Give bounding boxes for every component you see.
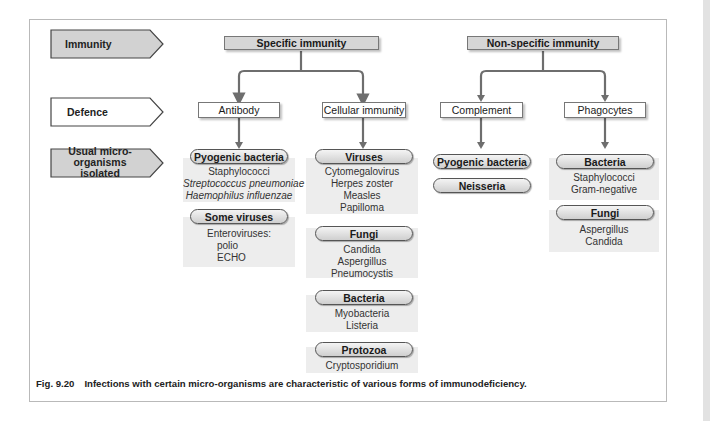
node-nonspecific-immunity: Non-specific immunity bbox=[467, 36, 619, 50]
group-title: Fungi bbox=[315, 226, 413, 241]
group-items: Enteroviruses: polio ECHO bbox=[183, 228, 295, 264]
organism-item: Cryptosporidium bbox=[306, 360, 418, 372]
group-items: Candida Aspergillus Pneumocystis bbox=[306, 244, 418, 280]
organism-item: Measles bbox=[306, 190, 418, 202]
organism-item: Staphylococci bbox=[549, 172, 659, 184]
group-items: Myobacteria Listeria bbox=[306, 308, 418, 332]
organism-item: polio bbox=[183, 240, 295, 252]
caption-text: Infections with certain micro-organisms … bbox=[84, 378, 526, 389]
group-title: Viruses bbox=[315, 149, 413, 164]
group-title: Pyogenic bacteria bbox=[190, 149, 288, 164]
node-phagocytes: Phagocytes bbox=[564, 102, 646, 118]
group-title: Bacteria bbox=[315, 290, 413, 305]
organism-item: Papilloma bbox=[306, 202, 418, 214]
group-items: Aspergillus Candida bbox=[549, 224, 659, 248]
node-antibody: Antibody bbox=[198, 102, 280, 118]
organism-item: Myobacteria bbox=[306, 308, 418, 320]
group-title: Neisseria bbox=[433, 178, 531, 193]
node-specific-immunity: Specific immunity bbox=[224, 36, 379, 50]
organism-item: Listeria bbox=[306, 320, 418, 332]
organism-item: Enteroviruses: bbox=[183, 228, 295, 240]
node-cellular-immunity: Cellular immunity bbox=[322, 102, 406, 118]
organism-item: Gram-negative bbox=[549, 184, 659, 196]
organism-item: Streptococcus pneumoniae bbox=[183, 178, 295, 190]
figure-caption: Fig. 9.20Infections with certain micro-o… bbox=[36, 378, 527, 389]
organism-item: Aspergillus bbox=[549, 224, 659, 236]
group-items: Cryptosporidium bbox=[306, 360, 418, 372]
organism-item: Pneumocystis bbox=[306, 268, 418, 280]
group-title: Pyogenic bacteria bbox=[433, 154, 531, 169]
organism-item: Candida bbox=[306, 244, 418, 256]
group-items: Staphylococci Streptococcus pneumoniae H… bbox=[183, 166, 295, 202]
node-complement: Complement bbox=[440, 102, 523, 118]
group-title: Protozoa bbox=[315, 342, 413, 357]
group-items: Staphylococci Gram-negative bbox=[549, 172, 659, 196]
group-items: Cytomegalovirus Herpes zoster Measles Pa… bbox=[306, 166, 418, 214]
organism-item: ECHO bbox=[183, 252, 295, 264]
organism-item: Haemophilus influenzae bbox=[183, 190, 295, 202]
figure-number: Fig. 9.20 bbox=[36, 378, 74, 389]
group-title: Bacteria bbox=[556, 154, 654, 169]
organism-item: Herpes zoster bbox=[306, 178, 418, 190]
organism-item: Cytomegalovirus bbox=[306, 166, 418, 178]
organism-item: Staphylococci bbox=[183, 166, 295, 178]
group-title: Some viruses bbox=[190, 209, 288, 224]
group-title: Fungi bbox=[556, 205, 654, 220]
organism-item: Candida bbox=[549, 236, 659, 248]
organism-item: Aspergillus bbox=[306, 256, 418, 268]
